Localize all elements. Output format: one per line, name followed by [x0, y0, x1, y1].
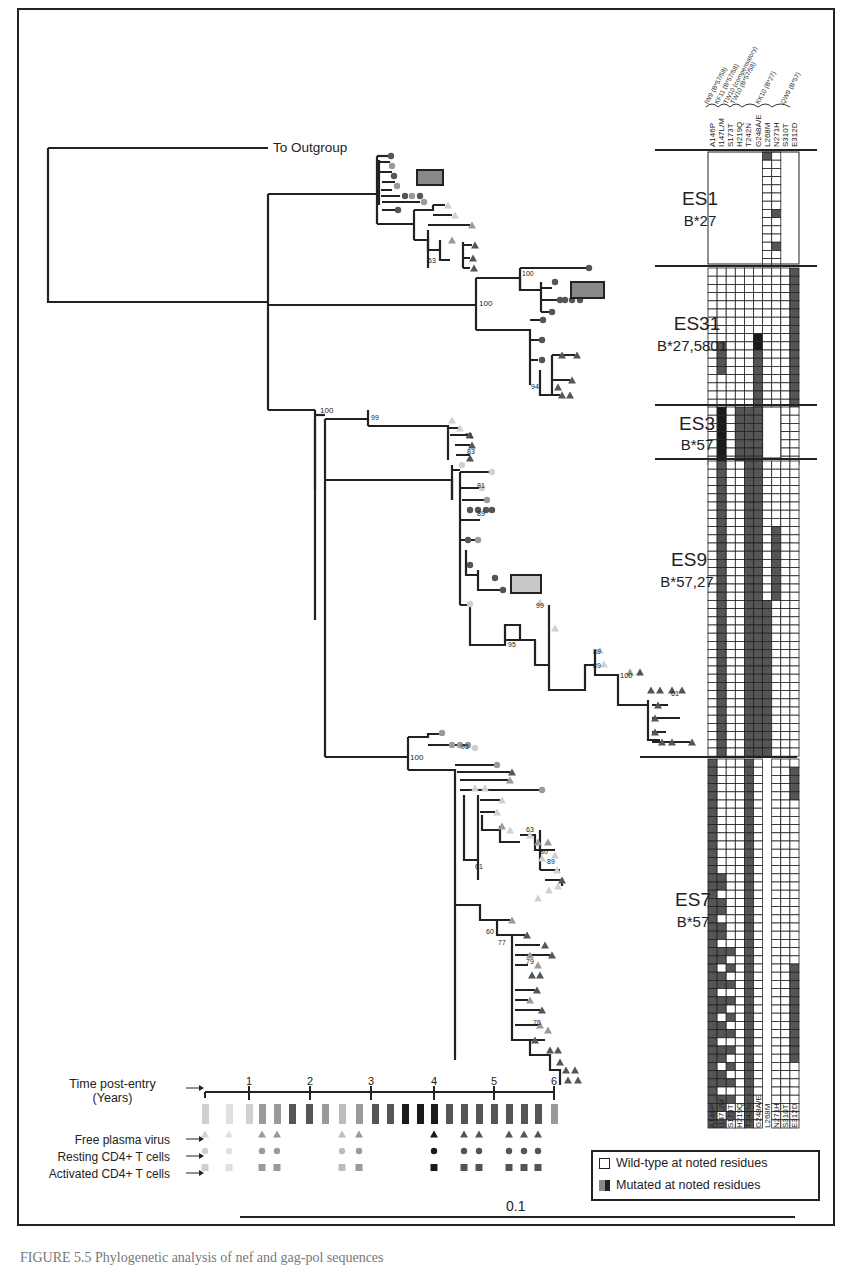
residue-label: S310T: [781, 1104, 790, 1128]
bootstrap-83: 83: [467, 448, 475, 455]
residue-label: I147L/M: [717, 118, 726, 147]
bootstrap-89c: 89: [593, 662, 601, 669]
residue-label: E312D: [790, 123, 799, 147]
residue-label: G248A/E: [754, 1096, 763, 1128]
timeline-tick-label: 2: [307, 1075, 313, 1087]
subject-es1-id: ES1: [655, 188, 745, 210]
bootstrap-60: 60: [486, 928, 494, 935]
legend-wild-type-label: Wild-type at noted residues: [616, 1156, 767, 1170]
residue-label: E312D: [790, 1104, 799, 1128]
bootstrap-79: 79: [526, 958, 534, 965]
residue-label: G248A/E: [754, 115, 763, 147]
bootstrap-61: 61: [671, 690, 679, 697]
residue-label: H219Q: [735, 1103, 744, 1128]
subject-es7-id: ES7: [648, 889, 738, 911]
timeline-tick-label: 3: [368, 1075, 374, 1087]
bootstrap-81: 81: [477, 482, 485, 489]
bootstrap-es31-sub: 100: [522, 270, 534, 277]
residue-label: H219Q: [735, 122, 744, 147]
bootstrap-80: 80: [540, 848, 548, 855]
bootstrap-95: 95: [508, 641, 516, 648]
subject-es9-hla: B*57,27: [637, 573, 737, 590]
residue-label: S310T: [781, 123, 790, 147]
subject-es3-hla: B*57: [652, 436, 742, 453]
row-label-resting-cd4: Resting CD4+ T cells: [20, 1150, 170, 1164]
residue-label: N271H: [772, 1103, 781, 1128]
bootstrap-99: 99: [536, 602, 544, 609]
timeline-title-line1: Time post-entry: [40, 1077, 185, 1091]
residue-label: S173T: [726, 123, 735, 147]
legend-mutated: Mutated at noted residues: [593, 1174, 818, 1196]
scale-bar-label: 0.1: [506, 1198, 525, 1214]
outgroup-label: To Outgroup: [273, 140, 347, 155]
residue-label: S173T: [726, 1104, 735, 1128]
legend-mutated-label: Mutated at noted residues: [616, 1178, 761, 1192]
subject-es31-id: ES31: [652, 313, 742, 335]
mutated-swatch-icon: [599, 1180, 610, 1191]
bootstrap-100-es7: 100: [410, 753, 423, 762]
bootstrap-63b: 63: [428, 257, 436, 264]
timeline-tick-label: 1: [246, 1075, 252, 1087]
bootstrap-100-es9: 100: [620, 671, 633, 680]
subject-es9-id: ES9: [644, 549, 734, 571]
subject-es31-hla: B*27,5801: [637, 337, 747, 354]
row-label-activated-cd4: Activated CD4+ T cells: [20, 1167, 170, 1181]
residue-label: L268M: [763, 1104, 772, 1128]
residue-label: A146P: [708, 123, 717, 147]
bootstrap-89: 89: [477, 510, 485, 517]
bootstrap-89b: 89: [593, 648, 601, 655]
figure-caption: FIGURE 5.5 Phylogenetic analysis of nef …: [20, 1250, 384, 1266]
subject-es3-id: ES3: [652, 413, 742, 435]
timeline-title-line2: (Years): [40, 1091, 185, 1105]
bootstrap-89d: 89: [547, 858, 555, 865]
bootstrap-root: 100: [320, 406, 333, 415]
subject-es7-hla: B*57: [648, 913, 738, 930]
bootstrap-77: 77: [498, 939, 506, 946]
residue-label: T242N: [744, 123, 753, 147]
subject-es1-hla: B*27: [655, 212, 745, 229]
bootstrap-es3: 99: [371, 414, 379, 421]
bootstrap-es31: 100: [479, 299, 492, 308]
residue-label: L268M: [763, 123, 772, 147]
legend: Wild-type at noted residues Mutated at n…: [591, 1150, 820, 1201]
row-label-free-plasma: Free plasma virus: [20, 1133, 170, 1147]
residue-label: N271H: [772, 122, 781, 147]
timeline-title: Time post-entry (Years): [40, 1077, 185, 1105]
bootstrap-61b: 61: [475, 863, 483, 870]
residue-label: T242N: [744, 1104, 753, 1128]
bootstrap-94: 94: [531, 383, 539, 390]
timeline-tick-label: 4: [431, 1075, 437, 1087]
bootstrap-63: 63: [526, 826, 534, 833]
timeline-tick-label: 5: [491, 1075, 497, 1087]
residue-label: A146P: [708, 1104, 717, 1128]
wild-type-swatch-icon: [599, 1158, 610, 1169]
bootstrap-71: 71: [465, 432, 473, 439]
timeline-tick-label: 6: [551, 1075, 557, 1087]
legend-wild-type: Wild-type at noted residues: [593, 1152, 818, 1174]
bootstrap-76: 76: [533, 1019, 541, 1026]
residue-label: I147L/M: [717, 1099, 726, 1128]
bootstrap-95b: 95: [461, 743, 469, 750]
